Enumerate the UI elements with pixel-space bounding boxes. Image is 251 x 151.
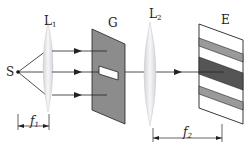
label-e: E [221,13,230,27]
source-point [16,70,20,74]
label-l1: L1 [44,14,56,29]
label-s: S [6,65,14,79]
label-f1: f1 [29,114,39,129]
optics-diagram: S L1 G L2 E f1 f2 [0,0,251,151]
lens-l2 [144,22,156,126]
screen-e [199,24,243,124]
label-g: G [108,16,118,30]
incident-rays [18,51,46,95]
lens-l1 [43,22,53,112]
label-l2: L2 [149,7,161,22]
label-f2: f2 [182,125,192,140]
